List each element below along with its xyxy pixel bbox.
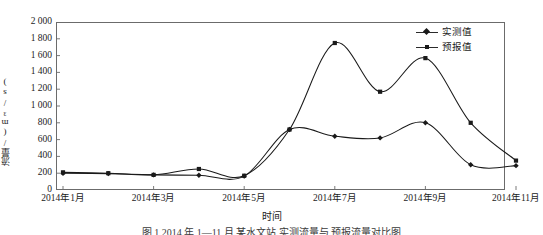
figure-caption: 图 1 2014 年 1—11 月 某水文站 实测流量与 预报流量对比图 bbox=[0, 224, 543, 235]
x-tick-label: 2014年1月 bbox=[41, 193, 85, 204]
data-point-marker bbox=[513, 163, 518, 168]
y-tick-label: 2 000 bbox=[12, 17, 52, 27]
x-tick-label: 2014年7月 bbox=[313, 193, 357, 204]
series-forecast bbox=[61, 41, 518, 178]
data-point-marker bbox=[287, 127, 291, 131]
x-axis-title: 时间 bbox=[0, 208, 543, 223]
chart-figure: 流量/(m³/s) 2 0001 8001 6001 4001 2001 000… bbox=[0, 0, 543, 235]
x-tick-label: 2014年5月 bbox=[222, 193, 266, 204]
y-tick-label: 400 bbox=[12, 151, 52, 161]
legend-item-forecast[interactable]: 预报值 bbox=[416, 41, 472, 53]
y-tick-label: 1 800 bbox=[12, 34, 52, 44]
data-point-marker bbox=[61, 170, 65, 174]
data-point-marker bbox=[377, 135, 382, 140]
data-point-marker bbox=[196, 173, 201, 178]
y-tick-label: 1 600 bbox=[12, 51, 52, 61]
data-point-marker bbox=[332, 134, 337, 139]
legend-marker-square-icon bbox=[416, 42, 438, 52]
data-point-marker bbox=[514, 159, 518, 163]
data-point-marker bbox=[378, 90, 382, 94]
data-point-marker bbox=[197, 167, 201, 171]
legend-item-measured[interactable]: 实测值 bbox=[416, 26, 472, 38]
series-line bbox=[63, 42, 516, 177]
data-point-marker bbox=[333, 41, 337, 45]
y-tick-label: 1 200 bbox=[12, 84, 52, 94]
legend-label-forecast: 预报值 bbox=[442, 42, 472, 52]
legend-marker-diamond-icon bbox=[416, 27, 438, 37]
x-axis-tick-labels: 2014年1月2014年3月2014年5月2014年7月2014年9月2014年… bbox=[0, 193, 543, 209]
data-point-marker bbox=[469, 121, 473, 125]
data-point-marker bbox=[423, 56, 427, 60]
x-tick-label: 2014年9月 bbox=[404, 193, 448, 204]
data-point-marker bbox=[152, 173, 156, 177]
chart-legend: 实测值 预报值 bbox=[416, 26, 472, 53]
data-point-marker bbox=[242, 174, 246, 178]
y-tick-label: 200 bbox=[12, 168, 52, 178]
y-tick-label: 800 bbox=[12, 118, 52, 128]
data-point-marker bbox=[423, 120, 428, 125]
legend-label-measured: 实测值 bbox=[442, 27, 472, 37]
x-tick-label: 2014年3月 bbox=[132, 193, 176, 204]
y-tick-label: 600 bbox=[12, 135, 52, 145]
x-tick-label: 2014年11月 bbox=[492, 193, 540, 204]
y-tick-label: 1 400 bbox=[12, 67, 52, 77]
y-tick-label: 1 000 bbox=[12, 101, 52, 111]
data-point-marker bbox=[468, 162, 473, 167]
data-point-marker bbox=[106, 171, 110, 175]
